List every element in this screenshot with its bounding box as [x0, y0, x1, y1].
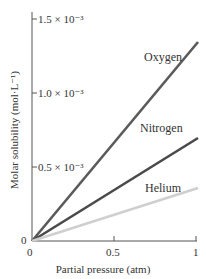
series-oxygen-line — [32, 42, 198, 241]
series-label-oxygen: Oxygen — [144, 50, 182, 64]
x-tick-label-1: 1 — [193, 246, 199, 258]
y-tick-label-1.5: 1.5 × 10⁻³ — [38, 13, 84, 25]
y-tick-label-0: 0 — [21, 234, 27, 246]
y-tick-label-0.5: 0.5 × 10⁻³ — [38, 161, 84, 173]
x-tick-label-0.5: 0.5 — [106, 246, 120, 258]
series-helium-line — [32, 188, 198, 241]
chart: 1.5 × 10⁻³ 1.0 × 10⁻³ 0.5 × 10⁻³ 0 0 0.5… — [0, 0, 206, 279]
x-axis-title: Partial pressure (atm) — [56, 263, 151, 276]
series-label-nitrogen: Nitrogen — [140, 121, 183, 135]
x-tick-label-0: 0 — [27, 246, 33, 258]
series-label-helium: Helium — [145, 181, 182, 195]
y-tick-label-1.0: 1.0 × 10⁻³ — [38, 87, 84, 99]
y-axis-title: Molar solubility (mol·L⁻¹) — [8, 71, 21, 189]
